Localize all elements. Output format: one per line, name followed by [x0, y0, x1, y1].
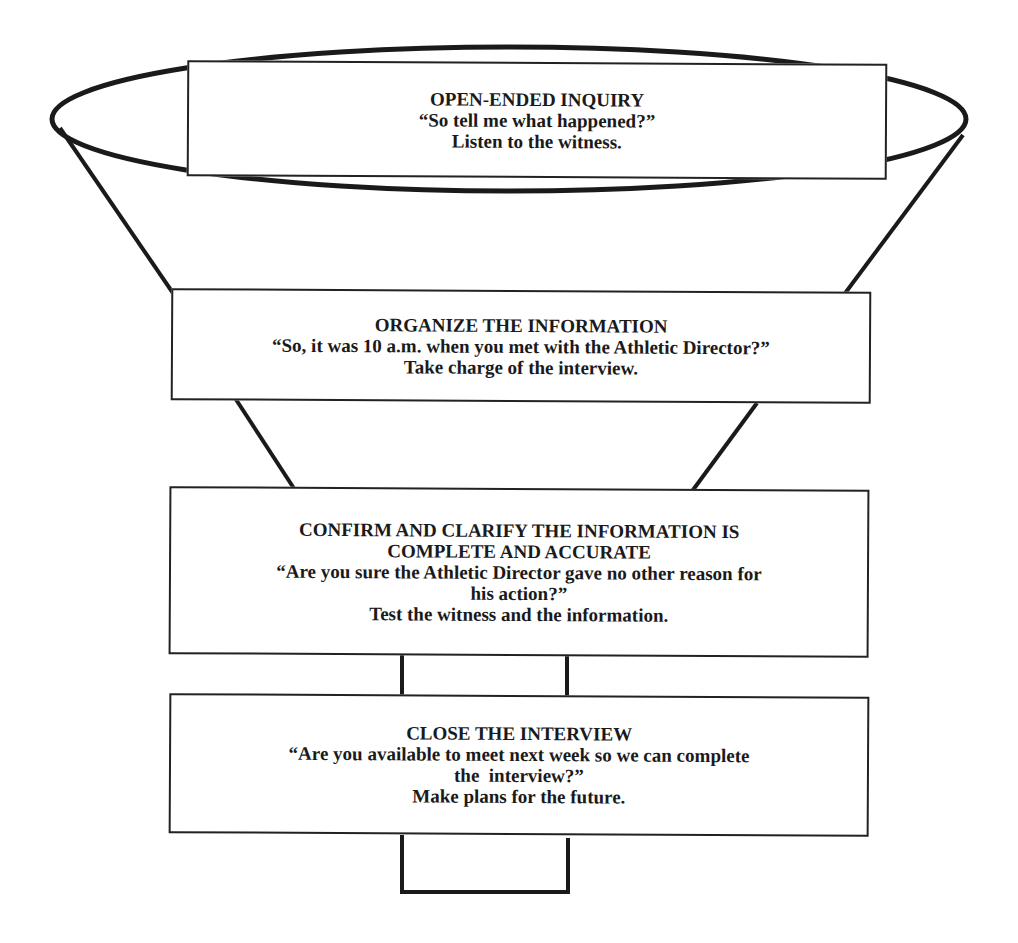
stage-box-open-ended-inquiry: OPEN-ENDED INQUIRY “So tell me what happ…	[187, 60, 888, 180]
stage-action: Take charge of the interview.	[173, 355, 869, 380]
funnel-left-upper	[60, 128, 175, 296]
funnel-left-middle	[235, 398, 295, 490]
stage-action: Listen to the witness.	[189, 129, 885, 154]
spout-cup	[402, 835, 568, 892]
stage-action: Make plans for the future.	[171, 784, 867, 809]
funnel-right-middle	[690, 403, 757, 494]
stage-box-close-interview: CLOSE THE INTERVIEW “Are you available t…	[169, 693, 870, 837]
stage-box-organize-information: ORGANIZE THE INFORMATION “So, it was 10 …	[171, 288, 872, 404]
stage-action: Test the witness and the information.	[171, 602, 867, 627]
stage-box-confirm-clarify: CONFIRM AND CLARIFY THE INFORMATION IS C…	[169, 486, 870, 658]
